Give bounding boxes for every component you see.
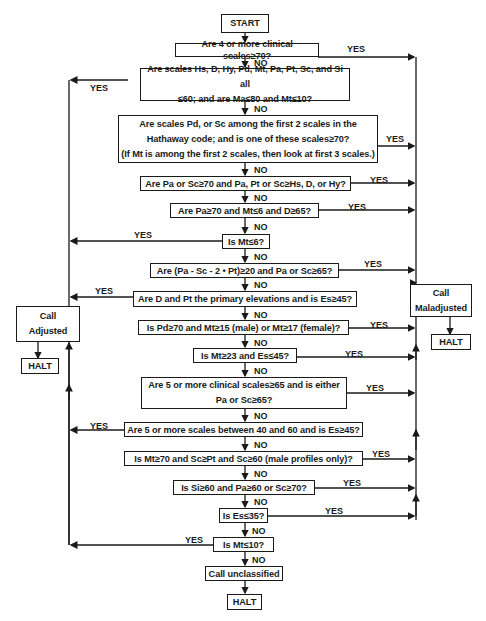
decision-si-pa-sc: Is Si≥60 and Pa≥60 or Sc≥70? bbox=[173, 480, 315, 495]
no-label: NO bbox=[254, 165, 268, 175]
decision-all-scales-low: Are scales Hs, D, Hy, Pd, Mt, Pa, Pt, Sc… bbox=[140, 68, 350, 101]
no-label: NO bbox=[254, 497, 268, 507]
no-label: NO bbox=[254, 280, 268, 290]
decision-text: Is Es≤35? bbox=[222, 510, 265, 522]
outcome-text: Adjusted bbox=[19, 324, 77, 339]
yes-label: YES bbox=[343, 478, 361, 488]
decision-text: Is Mt≥70 and Sc≥Pt and Sc≥60 (male profi… bbox=[127, 453, 360, 465]
decision-d-pt-primary: Are D and Pt the primary elevations and … bbox=[133, 291, 357, 307]
decision-text: Are (Pa - Sc - 2 • Pt)≥20 and Pa or Sc≥6… bbox=[153, 265, 336, 277]
yes-label: YES bbox=[364, 259, 382, 269]
outcome-maladjusted: Call Maladjusted bbox=[410, 284, 472, 317]
yes-label: YES bbox=[370, 320, 388, 330]
decision-text: Is Mt≤10? bbox=[216, 539, 271, 551]
no-label: NO bbox=[254, 252, 268, 262]
halt-node-adjusted: HALT bbox=[21, 358, 59, 374]
decision-pd-mt-gender: Is Pd≥70 and Mt≥15 (male) or Mt≥17 (fema… bbox=[138, 320, 349, 335]
decision-text: Is Mt≤6? bbox=[225, 236, 267, 248]
decision-four-clinical-scales: Are 4 or more clinical scales≥70? bbox=[175, 43, 319, 57]
start-node: START bbox=[221, 14, 269, 33]
yes-label: YES bbox=[366, 383, 384, 393]
decision-five-scales-40-60: Are 5 or more scales between 40 and 60 a… bbox=[124, 422, 363, 437]
halt-node-maladjusted: HALT bbox=[431, 334, 471, 350]
yes-label: YES bbox=[90, 421, 108, 431]
no-label: NO bbox=[254, 411, 268, 421]
decision-text: ≤60; and are Ma≤80 and Mt≤10? bbox=[143, 92, 347, 107]
yes-label: YES bbox=[185, 535, 203, 545]
yes-label: YES bbox=[345, 349, 363, 359]
decision-text: Are Pa or Sc≥70 and Pa, Pt or Sc≥Hs, D, … bbox=[143, 178, 348, 190]
outcome-adjusted: Call Adjusted bbox=[16, 306, 80, 342]
decision-pa-mt-d: Are Pa≥70 and Mt≤6 and D≥65? bbox=[170, 203, 319, 218]
decision-text: Are 5 or more clinical scales≥65 and is … bbox=[144, 378, 344, 393]
yes-label: YES bbox=[347, 44, 365, 54]
decision-text: Are D and Pt the primary elevations and … bbox=[136, 293, 354, 305]
no-label: NO bbox=[252, 555, 266, 565]
outcome-text: Call bbox=[413, 286, 469, 301]
decision-five-clinical-65: Are 5 or more clinical scales≥65 and is … bbox=[141, 377, 347, 409]
decision-mt-70-male: Is Mt≥70 and Sc≥Pt and Sc≥60 (male profi… bbox=[124, 451, 363, 466]
no-label: NO bbox=[254, 58, 268, 68]
decision-mt-23-es-45: Is Mt≥23 and Es≤45? bbox=[193, 348, 297, 363]
yes-label: YES bbox=[348, 202, 366, 212]
yes-label: YES bbox=[134, 230, 152, 240]
no-label: NO bbox=[254, 366, 268, 376]
yes-label: YES bbox=[90, 83, 108, 93]
yes-label: YES bbox=[372, 449, 390, 459]
decision-mt-le-10: Is Mt≤10? bbox=[213, 537, 274, 552]
no-label: NO bbox=[254, 222, 268, 232]
yes-label: YES bbox=[370, 175, 388, 185]
decision-pa-sc-pt-formula: Are (Pa - Sc - 2 • Pt)≥20 and Pa or Sc≥6… bbox=[150, 263, 339, 278]
no-label: NO bbox=[254, 469, 268, 479]
decision-text: Are 4 or more clinical scales≥70? bbox=[178, 38, 316, 62]
decision-pa-sc-70: Are Pa or Sc≥70 and Pa, Pt or Sc≥Hs, D, … bbox=[140, 176, 351, 191]
decision-text: (If Mt is among the first 2 scales, then… bbox=[121, 147, 375, 162]
decision-text: Is Si≥60 and Pa≥60 or Sc≥70? bbox=[176, 482, 312, 494]
decision-text: Are scales Pd, or Sc among the first 2 s… bbox=[121, 117, 375, 132]
halt-node-bottom: HALT bbox=[227, 594, 262, 610]
no-label: NO bbox=[252, 526, 266, 536]
decision-text: Is Pd≥70 and Mt≥15 (male) or Mt≥17 (fema… bbox=[141, 322, 346, 334]
yes-label: YES bbox=[325, 506, 343, 516]
outcome-text: Call bbox=[19, 309, 77, 324]
decision-hathaway-code: Are scales Pd, or Sc among the first 2 s… bbox=[118, 115, 378, 163]
decision-text: Hathaway code; and is one of these scale… bbox=[121, 132, 375, 147]
no-label: NO bbox=[254, 310, 268, 320]
yes-label: YES bbox=[95, 286, 113, 296]
decision-mt-le-6: Is Mt≤6? bbox=[222, 234, 270, 249]
no-label: NO bbox=[254, 193, 268, 203]
no-label: NO bbox=[254, 338, 268, 348]
decision-text: Pa or Sc≥65? bbox=[144, 393, 344, 408]
decision-text: Are 5 or more scales between 40 and 60 a… bbox=[127, 424, 360, 436]
outcome-text: Maladjusted bbox=[413, 301, 469, 316]
no-label: NO bbox=[254, 104, 268, 114]
outcome-unclassified: Call unclassified bbox=[205, 566, 283, 581]
decision-text: Is Mt≥23 and Es≤45? bbox=[196, 350, 294, 362]
decision-text: Are Pa≥70 and Mt≤6 and D≥65? bbox=[173, 205, 316, 217]
decision-text: Are scales Hs, D, Hy, Pd, Mt, Pa, Pt, Sc… bbox=[143, 62, 347, 92]
yes-label: YES bbox=[386, 134, 404, 144]
no-label: NO bbox=[254, 440, 268, 450]
decision-es-le-35: Is Es≤35? bbox=[219, 508, 268, 523]
